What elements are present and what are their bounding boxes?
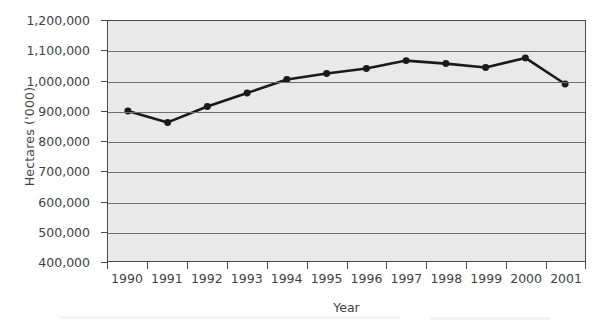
- x-tick-mark: [585, 262, 586, 269]
- gridline: [108, 172, 585, 173]
- gridline: [108, 82, 585, 83]
- y-tick-label: 1,200,000: [0, 13, 90, 28]
- gridline: [108, 112, 585, 113]
- y-tick-mark: [101, 81, 107, 82]
- data-point-marker: [164, 119, 171, 126]
- data-series-line: [108, 21, 585, 261]
- y-tick-label: 700,000: [0, 164, 90, 179]
- y-tick-mark: [101, 171, 107, 172]
- x-tick-mark: [506, 262, 507, 269]
- y-tick-mark: [101, 141, 107, 142]
- gridline: [108, 233, 585, 234]
- x-tick-mark: [426, 262, 427, 269]
- x-tick-mark: [307, 262, 308, 269]
- x-tick-label: 2001: [536, 271, 596, 286]
- y-tick-mark: [101, 50, 107, 51]
- scan-artifact: [60, 316, 400, 319]
- scan-artifact: [430, 317, 550, 320]
- data-point-marker: [442, 60, 449, 67]
- gridline: [108, 51, 585, 52]
- y-tick-label: 900,000: [0, 103, 90, 118]
- data-point-marker: [522, 54, 529, 61]
- x-tick-mark: [187, 262, 188, 269]
- x-tick-mark: [347, 262, 348, 269]
- y-tick-mark: [101, 202, 107, 203]
- x-tick-mark: [227, 262, 228, 269]
- x-tick-mark: [386, 262, 387, 269]
- x-tick-mark: [267, 262, 268, 269]
- y-tick-label: 500,000: [0, 224, 90, 239]
- y-axis-tick-labels: 1,200,0001,100,0001,000,000900,000800,00…: [0, 20, 98, 262]
- data-point-marker: [482, 64, 489, 71]
- y-tick-mark: [101, 262, 107, 263]
- y-tick-mark: [101, 232, 107, 233]
- x-axis-tick-marks: [107, 262, 586, 269]
- x-tick-mark: [107, 262, 108, 269]
- y-tick-label: 600,000: [0, 194, 90, 209]
- gridline: [108, 142, 585, 143]
- plot-area: [107, 20, 586, 262]
- data-point-marker: [363, 65, 370, 72]
- data-point-marker: [244, 90, 251, 97]
- data-point-marker: [204, 103, 211, 110]
- y-tick-label: 1,100,000: [0, 43, 90, 58]
- x-tick-mark: [546, 262, 547, 269]
- y-tick-label: 800,000: [0, 134, 90, 149]
- data-point-marker: [403, 57, 410, 64]
- x-tick-mark: [147, 262, 148, 269]
- data-point-marker: [323, 70, 330, 77]
- x-tick-mark: [466, 262, 467, 269]
- x-axis-title: Year: [107, 300, 586, 315]
- gridline: [108, 203, 585, 204]
- y-tick-mark: [101, 20, 107, 21]
- y-tick-mark: [101, 111, 107, 112]
- line-chart-figure: Hectares ('000) 1,200,0001,100,0001,000,…: [0, 0, 604, 327]
- y-tick-label: 400,000: [0, 255, 90, 270]
- x-axis-tick-labels: 1990199119921993199419951996199719981999…: [107, 271, 586, 289]
- y-tick-label: 1,000,000: [0, 73, 90, 88]
